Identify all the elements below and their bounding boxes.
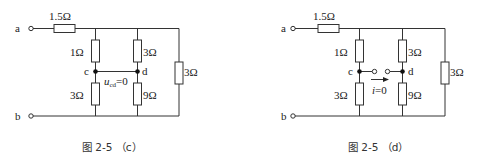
terminal-a-label: a: [15, 22, 20, 34]
annotation-i: i=0: [372, 84, 387, 96]
resistor-1.5ohm: [318, 25, 339, 33]
terminal-a-circle: [29, 26, 33, 30]
resistor-3ohm-right: [441, 62, 449, 84]
label-3ohm-c-bottom: 3Ω: [70, 89, 84, 101]
node-d-label: d: [142, 65, 148, 77]
label-3ohm-right: 3Ω: [450, 66, 464, 78]
terminal-b-circle: [291, 114, 295, 118]
terminal-a-label: a: [281, 22, 286, 34]
resistor-9ohm: [134, 83, 142, 105]
label-3ohm-right: 3Ω: [184, 66, 198, 78]
open-terminal-c: [372, 69, 376, 73]
circuit-figure-d: [291, 25, 449, 119]
terminal-b-label: b: [281, 110, 287, 122]
label-9ohm: 9Ω: [408, 89, 422, 101]
circuit-figure-c: [29, 25, 183, 119]
node-d-dot: [400, 69, 405, 74]
terminal-a-circle: [291, 26, 295, 30]
caption-c: 图 2-5 （c）: [82, 141, 142, 153]
label-1ohm: 1Ω: [334, 46, 348, 58]
open-terminal-d: [385, 69, 389, 73]
resistor-3ohm-d-top: [134, 40, 142, 62]
label-3ohm-d-top: 3Ω: [143, 46, 157, 58]
resistor-9ohm: [399, 83, 407, 105]
resistor-1.5ohm: [54, 25, 75, 33]
label-3ohm-c-bottom: 3Ω: [334, 89, 348, 101]
labels-figure-d: a b 1.5Ω 1Ω 3Ω 3Ω 9Ω 3Ω c d i=0 图 2-5 （d…: [281, 10, 464, 153]
resistor-1ohm: [356, 40, 364, 62]
caption-d: 图 2-5 （d）: [348, 141, 409, 153]
label-9ohm: 9Ω: [143, 89, 157, 101]
current-arrow-icon: [383, 77, 389, 82]
resistor-3ohm-right: [175, 62, 183, 84]
resistor-3ohm-c-bottom: [356, 83, 364, 105]
node-c-label: c: [84, 65, 89, 77]
label-1.5ohm: 1.5Ω: [49, 10, 71, 22]
resistor-3ohm-c-bottom: [92, 83, 100, 105]
annotation-ucd: ucd=0: [104, 75, 128, 89]
resistor-1ohm: [92, 40, 100, 62]
node-d-label: d: [408, 65, 414, 77]
label-1.5ohm: 1.5Ω: [313, 10, 335, 22]
node-c-label: c: [348, 65, 353, 77]
node-c-dot: [93, 69, 98, 74]
labels-figure-c: a b 1.5Ω 1Ω 3Ω 3Ω 9Ω 3Ω c d ucd=0 图 2-5 …: [15, 10, 198, 153]
terminal-b-label: b: [15, 110, 21, 122]
node-d-dot: [135, 69, 140, 74]
terminal-b-circle: [29, 114, 33, 118]
node-c-dot: [357, 69, 362, 74]
label-1ohm: 1Ω: [70, 46, 84, 58]
resistor-3ohm-d-top: [399, 40, 407, 62]
label-3ohm-d-top: 3Ω: [408, 46, 422, 58]
